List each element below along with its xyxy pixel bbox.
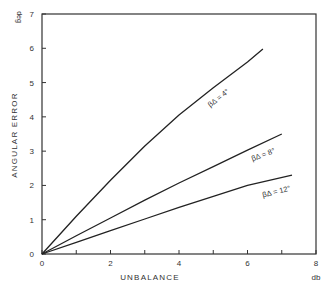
y-tick-label: 3 [30,147,35,156]
angular-error-chart: 0246801234567 βΔ = 4°βΔ = 8°βΔ = 12° UNB… [0,0,332,290]
y-tick-label: 4 [30,113,35,122]
x-axis-unit: db [312,273,321,282]
x-tick-label: 0 [40,259,45,268]
curve-label-2: βΔ = 8° [250,146,276,163]
y-tick-label: 0 [30,250,35,259]
y-tick-label: 2 [30,181,35,190]
x-tick-label: 4 [177,259,182,268]
curve-3 [42,175,292,254]
y-tick-label: 6 [30,44,35,53]
curve-2 [42,134,282,254]
y-axis-label: ANGULAR ERROR [10,92,19,177]
curve-1 [42,49,263,254]
data-curves [42,49,292,254]
curve-labels: βΔ = 4°βΔ = 8°βΔ = 12° [206,87,291,200]
curve-label-3: βΔ = 12° [261,184,291,200]
plot-frame [42,14,316,254]
axis-ticks: 0246801234567 [30,10,319,268]
x-axis-label: UNBALANCE [120,273,180,282]
x-tick-label: 6 [245,259,250,268]
y-tick-label: 5 [30,79,35,88]
x-tick-label: 2 [108,259,113,268]
y-tick-label: 1 [30,216,35,225]
x-tick-label: 8 [314,259,319,268]
y-tick-label: 7 [30,10,35,19]
y-axis-unit: deg [15,11,23,23]
